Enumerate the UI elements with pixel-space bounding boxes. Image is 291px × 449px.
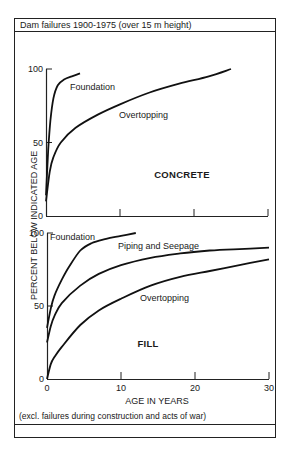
panel-title: CONCRETE: [154, 169, 210, 180]
series-label: Piping and Seepage: [118, 241, 199, 251]
fill-panel: 0501000102030FoundationPiping and Seepag…: [29, 228, 274, 393]
x-axis-label: AGE IN YEARS: [125, 396, 188, 406]
series-label: Overtopping: [119, 110, 168, 120]
y-tick-label: 0: [39, 374, 44, 384]
series-label: Foundation: [70, 82, 115, 92]
series-line-overtopping: [47, 259, 269, 379]
chart-title: Dam failures 1900-1975 (over 15 m height…: [20, 20, 192, 30]
panel-title: FILL: [137, 338, 158, 349]
y-tick-label: 50: [33, 138, 43, 148]
figure-frame: [15, 19, 276, 438]
footnote: (excl. failures during construction and …: [19, 411, 206, 421]
dam-failures-chart: Dam failures 1900-1975 (over 15 m height…: [0, 0, 291, 449]
x-tick-label: 20: [190, 383, 200, 393]
series-label: Foundation: [50, 232, 95, 242]
x-tick-label: 0: [44, 383, 49, 393]
y-tick-label: 100: [29, 228, 44, 238]
y-tick-label: 50: [34, 301, 44, 311]
x-tick-label: 10: [116, 383, 126, 393]
y-tick-label: 0: [38, 211, 43, 221]
y-tick-label: 100: [28, 64, 43, 74]
series-label: Overtopping: [140, 293, 189, 303]
y-axis-label: PERCENT BELOW INDICATED AGE: [29, 151, 39, 300]
concrete-panel: 050100FoundationOvertoppingCONCRETE: [28, 64, 268, 221]
x-tick-label: 30: [264, 383, 274, 393]
